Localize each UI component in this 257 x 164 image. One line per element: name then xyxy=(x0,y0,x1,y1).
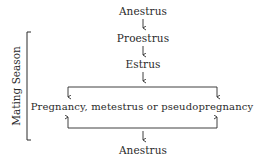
join-connector xyxy=(68,117,217,128)
node-estrus: Estrus xyxy=(125,59,160,70)
mating-season-label: Mating Season xyxy=(11,46,22,126)
split-connector xyxy=(68,87,217,97)
node-anestrus-top: Anestrus xyxy=(119,6,167,17)
diagram-connectors xyxy=(0,0,257,164)
node-proestrus: Proestrus xyxy=(117,33,169,44)
mating-season-bracket xyxy=(27,32,31,140)
node-pregnancy-metestrus-pseudopregnancy: Pregnancy, metestrus or pseudopregnancy xyxy=(31,102,254,112)
node-anestrus-bottom: Anestrus xyxy=(119,145,167,156)
